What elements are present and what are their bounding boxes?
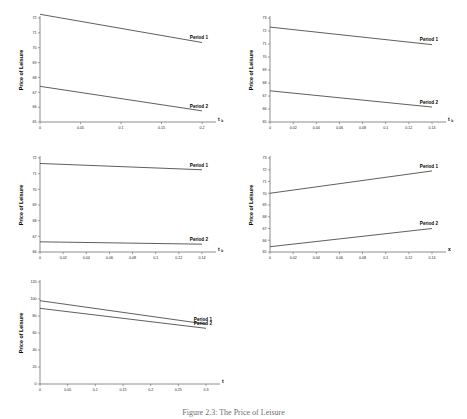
y-tick-label: 65 [263, 120, 267, 124]
x-tick-label: 0.15 [120, 388, 127, 392]
chart-panel-5-svg: 02040608010012000.050.10.150.20.250.3Pri… [6, 272, 246, 406]
series-label: Period 2 [190, 104, 209, 109]
y-tick-label: 72 [33, 16, 37, 20]
y-tick-label: 70 [33, 188, 37, 192]
series-label: Period 1 [420, 164, 439, 169]
y-tick-label: 73 [263, 156, 267, 160]
y-tick-label: 120 [31, 280, 37, 284]
x-tick-label: 0.08 [359, 256, 366, 260]
x-tick-label: 0.25 [175, 388, 182, 392]
x-tick-label: 0 [39, 388, 41, 392]
y-tick-label: 66 [33, 250, 37, 254]
x-tick-label: 0.02 [60, 256, 67, 260]
x-tick-label: 0.06 [336, 256, 343, 260]
series-label: Period 1 [190, 35, 209, 40]
y-tick-label: 67 [33, 235, 37, 239]
series-label: Period 1 [420, 37, 439, 42]
y-tick-label: 71 [263, 42, 267, 46]
y-tick-label: 71 [33, 31, 37, 35]
x-tick-label: 0.05 [77, 126, 84, 130]
y-tick-label: 100 [31, 297, 37, 301]
series-line [270, 91, 432, 107]
y-tick-label: 69 [33, 61, 37, 65]
y-tick-label: 65 [263, 250, 267, 254]
x-axis-title: t [218, 116, 220, 122]
chart-panel-4-svg: 65666768697071727300.020.040.060.080.10.… [236, 148, 464, 274]
y-tick-label: 66 [33, 105, 37, 109]
y-tick-label: 60 [33, 331, 37, 335]
x-tick-label: 0.06 [336, 126, 343, 130]
y-tick-label: 67 [33, 91, 37, 95]
y-tick-label: 72 [33, 156, 37, 160]
x-tick-label: 0.15 [158, 126, 165, 130]
y-tick-label: 70 [263, 55, 267, 59]
y-axis-title: Price of Leisure [18, 185, 24, 225]
y-axis-title: Price of Leisure [18, 313, 24, 353]
x-tick-label: 0.02 [290, 256, 297, 260]
series-line [270, 229, 432, 247]
x-axis-title: t [218, 246, 220, 252]
chart-panel-1: 656667686970717200.050.10.150.2Price of … [6, 6, 234, 146]
x-tick-label: 0.04 [313, 256, 320, 260]
y-tick-label: 72 [263, 168, 267, 172]
x-tick-label: 0.08 [359, 126, 366, 130]
chart-panel-1-svg: 656667686970717200.050.10.150.2Price of … [6, 6, 234, 146]
x-axis-title: t [448, 116, 450, 122]
x-tick-label: 0.05 [64, 388, 71, 392]
x-tick-label: 0.3 [204, 388, 209, 392]
y-tick-label: 66 [263, 107, 267, 111]
y-axis-title: Price of Leisure [248, 185, 254, 225]
x-axis-title-subscript: b [451, 119, 453, 123]
y-tick-label: 68 [263, 215, 267, 219]
y-tick-label: 71 [263, 180, 267, 184]
chart-panel-3: 6667686970717200.020.040.060.080.10.120.… [6, 148, 234, 274]
x-tick-label: 0.14 [199, 256, 206, 260]
y-tick-label: 65 [33, 120, 37, 124]
series-line [40, 242, 202, 244]
x-tick-label: 0.06 [106, 256, 113, 260]
chart-panel-2-svg: 65666768697071727300.020.040.060.080.10.… [236, 6, 464, 146]
y-tick-label: 40 [33, 348, 37, 352]
series-line [40, 308, 206, 328]
series-label: Period 2 [194, 321, 213, 326]
y-tick-label: 72 [263, 29, 267, 33]
y-tick-label: 20 [33, 365, 37, 369]
chart-panel-4: 65666768697071727300.020.040.060.080.10.… [236, 148, 464, 274]
series-label: Period 2 [420, 221, 439, 226]
y-tick-label: 73 [263, 16, 267, 20]
x-tick-label: 0.08 [129, 256, 136, 260]
series-line [40, 163, 202, 169]
figure-caption: Figure 2.3: The Price of Leisure [0, 408, 467, 419]
y-tick-label: 80 [33, 314, 37, 318]
x-tick-label: 0.1 [383, 256, 388, 260]
y-tick-label: 67 [263, 227, 267, 231]
x-tick-label: 0.2 [200, 126, 205, 130]
x-tick-label: 0.2 [148, 388, 153, 392]
x-tick-label: 0 [269, 256, 271, 260]
y-tick-label: 69 [263, 203, 267, 207]
series-line [40, 86, 202, 111]
y-tick-label: 0 [35, 382, 37, 386]
x-tick-label: 0.14 [429, 256, 436, 260]
y-axis-title: Price of Leisure [248, 50, 254, 90]
y-tick-label: 70 [33, 46, 37, 50]
y-tick-label: 68 [33, 76, 37, 80]
y-tick-label: 69 [33, 203, 37, 207]
x-tick-label: 0 [39, 256, 41, 260]
x-tick-label: 0.12 [405, 256, 412, 260]
x-tick-label: 0 [39, 126, 41, 130]
y-tick-label: 68 [33, 219, 37, 223]
y-tick-label: 66 [263, 239, 267, 243]
x-axis-title: t [222, 378, 224, 384]
x-tick-label: 0.1 [93, 388, 98, 392]
x-axis-title: x [448, 246, 451, 252]
x-tick-label: 0.12 [405, 126, 412, 130]
y-tick-label: 70 [263, 192, 267, 196]
series-label: Period 1 [190, 163, 209, 168]
x-tick-label: 0.14 [429, 126, 436, 130]
x-tick-label: 0 [269, 126, 271, 130]
x-axis-title-subscript: b [221, 249, 223, 253]
y-tick-label: 69 [263, 68, 267, 72]
x-tick-label: 0.1 [153, 256, 158, 260]
x-axis-title-subscript: b [221, 119, 223, 123]
